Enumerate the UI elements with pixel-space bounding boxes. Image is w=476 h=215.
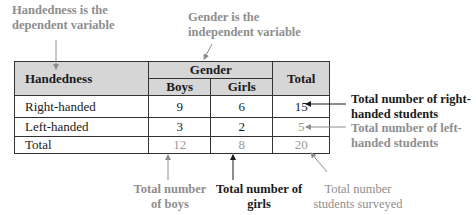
annotation-arrows [0, 0, 476, 215]
arrow-grand-total [311, 153, 327, 172]
arrow-independent [204, 44, 212, 59]
